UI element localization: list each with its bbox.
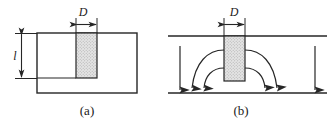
figure-container: D l (a) D [0,0,331,127]
panel-b-plug [224,36,245,81]
panel-a-depth-dimension: l [13,34,37,79]
panel-b-flow-arrow-curved-inner-right [245,68,265,88]
panel-b-caption: (b) [233,103,248,118]
panel-a-plug [76,33,97,78]
panel-b-diameter-label: D [229,5,239,19]
panel-a-diameter-label: D [78,5,88,19]
panel-a-caption: (a) [80,103,94,118]
panel-a-depth-label: l [13,49,17,63]
panel-b-diameter-dimension: D [224,5,245,36]
panel-a-diameter-dimension: D [76,5,97,33]
diagram-svg: D l (a) D [0,0,331,127]
panel-b-flow-arrow-curved-inner-left [204,68,224,88]
panel-a: D l (a) [13,5,137,118]
panel-b: D (b) [168,5,327,118]
